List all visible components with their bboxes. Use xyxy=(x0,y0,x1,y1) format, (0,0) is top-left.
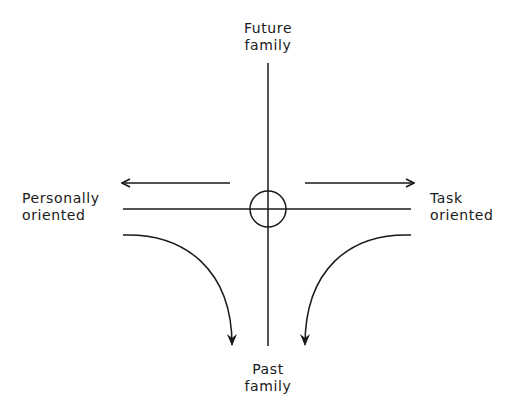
label-personally-line2: oriented xyxy=(22,207,100,224)
label-future-line1: Future xyxy=(228,20,308,37)
label-task-line2: oriented xyxy=(430,207,494,224)
label-future-family: Future family xyxy=(228,20,308,54)
label-past-line1: Past xyxy=(228,361,308,378)
curved-arrow-right-icon xyxy=(305,235,411,345)
label-task-line1: Task xyxy=(430,190,494,207)
label-past-family: Past family xyxy=(228,361,308,395)
label-personally-oriented: Personally oriented xyxy=(22,190,100,224)
label-past-line2: family xyxy=(228,378,308,395)
label-future-line2: family xyxy=(228,37,308,54)
label-task-oriented: Task oriented xyxy=(430,190,494,224)
label-personally-line1: Personally xyxy=(22,190,100,207)
curved-arrow-left-icon xyxy=(123,235,232,345)
